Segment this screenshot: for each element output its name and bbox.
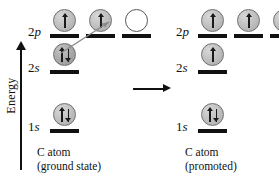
- orbital-line-1s: [50, 129, 79, 133]
- caption-line-1: C atom: [37, 145, 101, 159]
- electron-sphere-1s: [53, 103, 76, 126]
- shell-label-2s: 2s: [28, 60, 40, 76]
- shell-label-2p: 2p: [176, 24, 189, 40]
- spin-down-stem: [68, 109, 70, 122]
- spin-up-stem: [209, 109, 211, 122]
- electron-sphere-2p-3: [273, 9, 279, 32]
- spin-up-stem: [64, 15, 66, 28]
- shell-label-2s: 2s: [176, 60, 188, 76]
- spin-down-stem: [68, 49, 70, 62]
- right-arrow-icon: [163, 84, 171, 92]
- orbital-line-2p-1: [50, 34, 79, 38]
- caption-ground-state: C atom (ground state): [37, 145, 101, 173]
- spin-up-stem: [100, 15, 102, 28]
- caption-line-2: (ground state): [37, 159, 101, 173]
- electron-sphere-2p-1: [201, 9, 224, 32]
- electron-sphere-2p-3-empty: [125, 9, 148, 32]
- orbital-line-2p-3: [270, 34, 279, 38]
- spin-up-stem: [61, 109, 63, 122]
- electron-sphere-2p-2: [237, 9, 260, 32]
- shell-label-1s: 1s: [176, 119, 188, 135]
- spin-up-stem: [212, 15, 214, 28]
- orbital-line-2p-1: [198, 34, 227, 38]
- orbital-line-2p-2: [234, 34, 263, 38]
- panel-promoted: 2p 2s 1s: [178, 0, 279, 184]
- caption-promoted: C atom (promoted): [185, 145, 237, 173]
- energy-axis-label: Energy: [4, 66, 19, 126]
- electron-sphere-2p-1: [53, 9, 76, 32]
- spin-down-stem: [216, 109, 218, 122]
- orbital-line-2p-2: [86, 34, 115, 38]
- electron-sphere-2s: [201, 43, 224, 66]
- shell-label-1s: 1s: [28, 119, 40, 135]
- shell-label-2p: 2p: [28, 24, 41, 40]
- panel-ground-state: 2p 2s 1s: [30, 0, 160, 184]
- electron-sphere-2s: [53, 43, 76, 66]
- electron-sphere-2p-2: [89, 9, 112, 32]
- orbital-line-2s: [50, 70, 79, 74]
- caption-line-1: C atom: [185, 145, 237, 159]
- energy-axis-line: [20, 48, 22, 170]
- orbital-line-1s: [198, 129, 227, 133]
- spin-up-stem: [248, 15, 250, 28]
- right-arrow-shaft: [133, 88, 165, 90]
- spin-up-stem: [61, 49, 63, 62]
- caption-line-2: (promoted): [185, 159, 237, 173]
- orbital-energy-diagram: Energy 2p 2s 1s: [0, 0, 279, 184]
- spin-up-stem: [212, 49, 214, 62]
- orbital-line-2s: [198, 70, 227, 74]
- electron-sphere-1s: [201, 103, 224, 126]
- orbital-line-2p-3: [122, 34, 151, 38]
